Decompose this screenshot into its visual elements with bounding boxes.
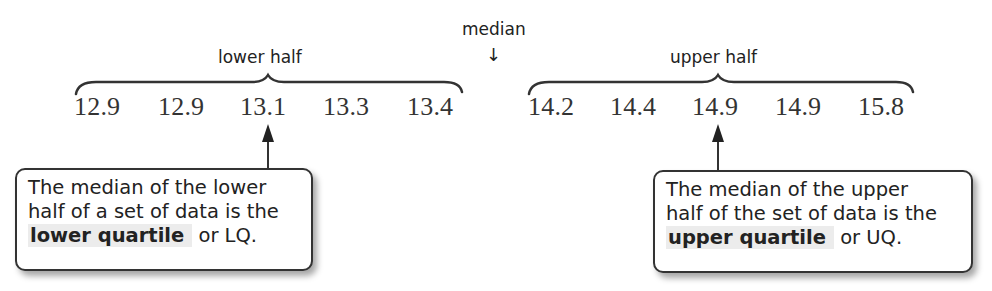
- callout-tail: or LQ.: [198, 224, 257, 247]
- lower-value-5: 13.4: [407, 92, 453, 122]
- lower-value-3: 13.1: [240, 92, 286, 122]
- upper-value-5: 15.8: [858, 92, 904, 122]
- callout-line: half of the set of data is the: [666, 202, 961, 226]
- upper-value-3: 14.9: [692, 92, 738, 122]
- upper-value-2: 14.4: [610, 92, 656, 122]
- callout-line: The median of the upper: [666, 178, 961, 202]
- lower-quartile-arrow-icon: [262, 124, 274, 142]
- upper-value-1: 14.2: [528, 92, 574, 122]
- lower-quartile-callout: The median of the lower half of a set of…: [15, 168, 313, 271]
- upper-value-4: 14.9: [775, 92, 821, 122]
- lower-quartile-term: lower quartile: [28, 224, 192, 247]
- callout-tail: or UQ.: [840, 226, 902, 249]
- lower-value-2: 12.9: [158, 92, 204, 122]
- lower-value-4: 13.3: [323, 92, 369, 122]
- upper-quartile-term: upper quartile: [666, 226, 834, 249]
- upper-quartile-arrow-icon: [712, 124, 724, 142]
- upper-quartile-callout: The median of the upper half of the set …: [653, 170, 973, 273]
- callout-line: upper quartile or UQ.: [666, 226, 961, 250]
- lower-value-1: 12.9: [74, 92, 120, 122]
- callout-line: The median of the lower: [28, 176, 301, 200]
- callout-line: half of a set of data is the: [28, 200, 301, 224]
- callout-line: lower quartile or LQ.: [28, 224, 301, 248]
